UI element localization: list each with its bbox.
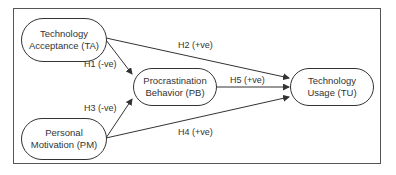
edge-label-h5: H5 (+ve) (230, 75, 265, 85)
edge-label-h1: H1 (-ve) (84, 59, 117, 69)
node-label-line2: Behavior (PB) (145, 87, 204, 99)
node-procrastination-behavior: Procrastination Behavior (PB) (133, 68, 217, 106)
node-label-line1: Technology (308, 75, 356, 87)
node-label-line2: Usage (TU) (307, 87, 356, 99)
node-label-line1: Technology (40, 28, 88, 40)
node-label-line1: Personal (45, 127, 83, 139)
edge-label-h2: H2 (+ve) (178, 40, 213, 50)
node-label-line2: Motivation (PM) (31, 139, 98, 151)
node-technology-acceptance: Technology Acceptance (TA) (21, 18, 107, 62)
node-label-line1: Procrastination (143, 75, 206, 87)
edge-label-h3: H3 (-ve) (84, 103, 117, 113)
node-label-line2: Acceptance (TA) (29, 40, 99, 52)
node-personal-motivation: Personal Motivation (PM) (21, 118, 107, 160)
node-technology-usage: Technology Usage (TU) (290, 68, 374, 106)
edge-label-h4: H4 (+ve) (178, 127, 213, 137)
